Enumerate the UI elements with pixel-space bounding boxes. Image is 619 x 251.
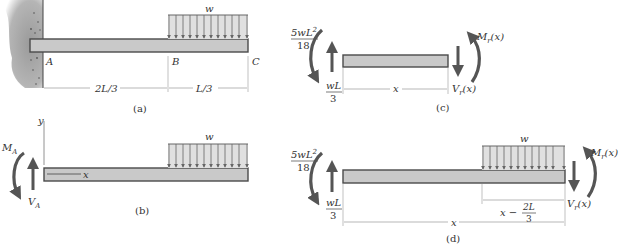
panel-a: w A B C 2L/3 L/3 (a)	[0, 0, 260, 114]
left-moment-arrow-d	[311, 153, 322, 200]
panel-c: 5wL2 18 wL 3 x Mr(x) Vr(x) (c)	[291, 26, 504, 113]
svg-text:3: 3	[330, 93, 336, 104]
svg-text:L/3: L/3	[195, 83, 212, 94]
beam-c	[343, 55, 448, 67]
svg-text:w: w	[205, 131, 214, 142]
panel-d: 5wL2 18 wL 3 w	[291, 133, 618, 244]
svg-text:18: 18	[297, 40, 310, 51]
load-label-w: w	[205, 3, 214, 14]
distributed-load-a	[168, 15, 248, 39]
dimension-x-c: x	[393, 83, 399, 94]
beam-a	[30, 39, 248, 52]
svg-text:x −: x −	[500, 207, 517, 218]
svg-text:2L/3: 2L/3	[94, 83, 118, 94]
moment-label-ma: MA	[1, 142, 17, 156]
caption-d: (d)	[446, 233, 460, 244]
shear-label-va: VA	[28, 196, 40, 210]
beam-diagram: w A B C 2L/3 L/3 (a) y x	[0, 0, 619, 251]
right-shear-label-d: Vr(x)	[567, 198, 591, 212]
dimension-2L3: 2L/3	[44, 83, 167, 94]
y-axis-label: y	[37, 115, 44, 126]
beam-b	[44, 168, 248, 181]
right-moment-label-c: Mr(x)	[476, 31, 504, 45]
svg-text:w: w	[520, 133, 529, 144]
right-shear-label-c: Vr(x)	[452, 83, 476, 97]
svg-text:x: x	[451, 217, 457, 228]
left-force-frac-d: wL 3	[326, 197, 342, 221]
svg-text:3: 3	[526, 214, 532, 224]
svg-text:5wL2: 5wL2	[291, 26, 318, 38]
distributed-load-b	[168, 144, 248, 168]
svg-text:18: 18	[297, 162, 310, 173]
svg-text:wL: wL	[326, 197, 342, 208]
caption-a: (a)	[133, 103, 147, 114]
right-moment-label-d: Mr(x)	[590, 147, 618, 161]
moment-arrow-ma	[14, 153, 24, 194]
point-c-label: C	[252, 56, 260, 67]
dimension-x-minus-2L3: x − 2L 3	[483, 200, 564, 224]
beam-d	[343, 170, 565, 183]
caption-c: (c)	[436, 102, 450, 113]
panel-b: y x w MA VA (b)	[1, 115, 248, 216]
dimension-L3: L/3	[169, 83, 247, 94]
svg-text:5wL2: 5wL2	[291, 148, 318, 160]
x-axis-label: x	[83, 169, 89, 180]
right-moment-arrow-c	[471, 36, 479, 82]
point-a-label: A	[45, 56, 53, 67]
point-b-label: B	[171, 56, 179, 67]
distributed-load-d	[482, 146, 565, 170]
caption-b: (b)	[135, 205, 149, 216]
svg-text:2L: 2L	[522, 202, 535, 212]
svg-text:3: 3	[330, 210, 336, 221]
svg-text:wL: wL	[326, 80, 342, 91]
left-force-frac-c: wL 3	[326, 80, 342, 104]
